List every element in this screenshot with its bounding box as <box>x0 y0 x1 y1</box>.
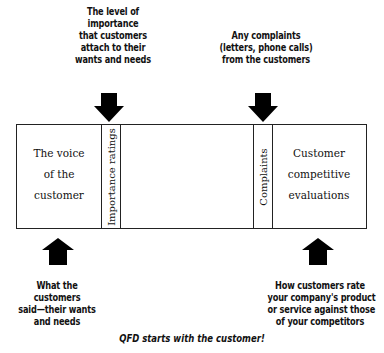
diagram-caption: QFD starts with the customer! <box>29 333 355 344</box>
qfd-room-box: The voice of the customer Importance rat… <box>16 124 367 229</box>
importance-ratings-column: Importance ratings <box>101 125 121 228</box>
competitive-source-note: How customers rate your company's produc… <box>268 280 373 328</box>
complaints-note: Any complaints (letters, phone calls) fr… <box>217 30 315 66</box>
importance-note: The level of importance that customers a… <box>68 6 158 66</box>
voice-source-note: What the customers said—their wants and … <box>12 280 102 328</box>
up-arrow-icon <box>302 238 334 265</box>
complaints-label: Complaints <box>258 148 269 206</box>
down-arrow-icon <box>248 93 278 122</box>
voice-of-customer-cell: The voice of the customer <box>17 143 101 206</box>
complaints-column: Complaints <box>253 125 273 228</box>
up-arrow-icon <box>42 238 74 265</box>
competitive-evaluations-cell: Customer competitive evaluations <box>273 143 365 206</box>
down-arrow-icon <box>94 93 124 122</box>
importance-ratings-label: Importance ratings <box>106 128 117 226</box>
